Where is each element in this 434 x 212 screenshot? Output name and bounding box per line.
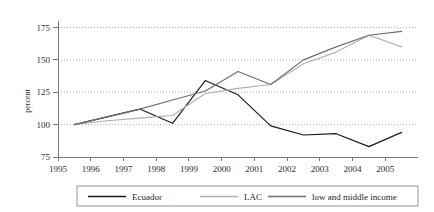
data-series-group (74, 31, 401, 146)
series-line-lac (74, 35, 401, 124)
x-tick-labels: 1995199619971998199920002001200220032004… (49, 164, 395, 174)
legend-label-lac: LAC (244, 192, 262, 202)
x-tick-label: 2000 (213, 164, 232, 174)
legend-label-ecuador: Ecuador (132, 192, 162, 202)
series-line-ecuador (74, 81, 401, 147)
x-tick-label: 1996 (82, 164, 101, 174)
x-tick-label: 2004 (344, 164, 363, 174)
y-tick-label: 100 (37, 120, 51, 130)
x-tick-label: 1997 (114, 164, 133, 174)
series-line-low-and-middle-income (74, 31, 401, 124)
gridlines (58, 27, 418, 124)
y-tick-label: 125 (37, 87, 51, 97)
y-tick-marks (53, 27, 58, 157)
y-tick-label: 175 (37, 23, 51, 33)
x-tick-label: 2002 (278, 164, 296, 174)
x-tick-label: 1999 (180, 164, 199, 174)
legend-label-low-and-middle-income: low and middle income (312, 192, 397, 202)
y-tick-label: 150 (37, 55, 51, 65)
x-tick-label: 2005 (376, 164, 395, 174)
x-tick-label: 2001 (245, 164, 263, 174)
x-tick-marks (58, 157, 385, 161)
line-chart: 75100125150175 1995199619971998199920002… (0, 0, 434, 212)
x-tick-label: 1995 (49, 164, 68, 174)
legend: EcuadorLAClow and middle income (77, 186, 418, 206)
y-tick-labels: 75100125150175 (37, 23, 51, 163)
y-tick-label: 75 (41, 152, 51, 162)
chart-container: 75100125150175 1995199619971998199920002… (0, 0, 434, 212)
y-axis-title: percent (23, 88, 32, 112)
x-tick-label: 2003 (311, 164, 330, 174)
x-tick-label: 1998 (147, 164, 166, 174)
